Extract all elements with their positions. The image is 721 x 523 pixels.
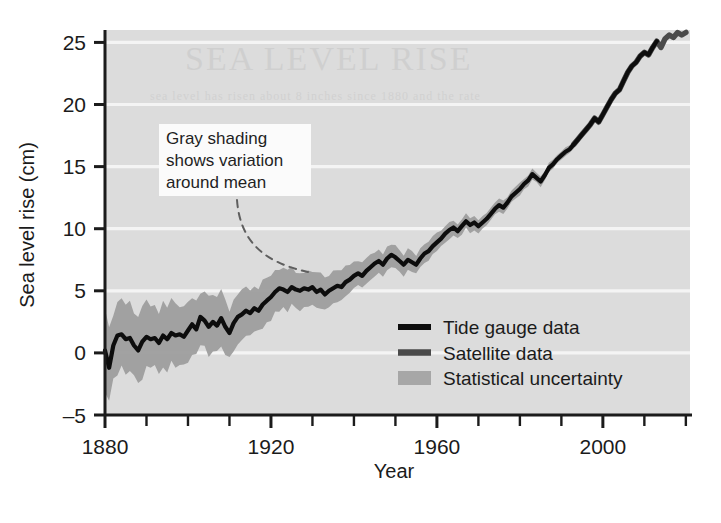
y-tick-label-5: 5 <box>74 279 86 302</box>
plot-area-background <box>105 30 690 415</box>
legend-label-1: Satellite data <box>443 343 553 364</box>
legend-swatch-2 <box>398 371 431 385</box>
ghost-body-text: sea level has risen about 8 inches since… <box>150 89 481 103</box>
ghost-title-text: SEA LEVEL RISE <box>185 40 472 77</box>
y-axis-title: Sea level rise (cm) <box>16 142 38 308</box>
annotation-line-1: Gray shading <box>166 129 267 148</box>
x-tick-label-2000: 2000 <box>580 435 627 458</box>
y-tick-label-10: 10 <box>63 217 86 240</box>
y-tick-label-20: 20 <box>63 93 86 116</box>
x-tick-label-1920: 1920 <box>248 435 295 458</box>
annotation-callout: Gray shading shows variation around mean <box>159 124 311 196</box>
y-tick-label-0: 0 <box>74 341 86 364</box>
chart-svg: SEA LEVEL RISE sea level has risen about… <box>0 0 721 523</box>
x-tick-label-1960: 1960 <box>414 435 461 458</box>
x-axis-title: Year <box>374 460 415 482</box>
y-tick-label-15: 15 <box>63 155 86 178</box>
annotation-line-2: shows variation <box>166 151 283 170</box>
page-bleedthrough-artifact: SEA LEVEL RISE sea level has risen about… <box>150 40 481 103</box>
sea-level-rise-chart-figure: SEA LEVEL RISE sea level has risen about… <box>0 0 721 523</box>
y-tick-label--5: –5 <box>63 404 86 427</box>
y-tick-label-25: 25 <box>63 31 86 54</box>
legend-label-0: Tide gauge data <box>443 317 580 338</box>
annotation-line-3: around mean <box>166 173 266 192</box>
x-tick-label-1880: 1880 <box>82 435 129 458</box>
legend-label-2: Statistical uncertainty <box>443 368 623 389</box>
